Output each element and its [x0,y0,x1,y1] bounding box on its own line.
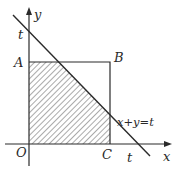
origin-label: O [16,145,27,160]
x-axis-arrow-icon [164,141,172,147]
point-b-label: B [113,50,124,65]
diagram-canvas: y t A B O C t x x+y=t [0,0,174,173]
y-axis-arrow-icon [26,7,32,15]
x-intercept-label: t [127,150,133,165]
line-equation-label: x+y=t [117,115,154,129]
x-axis-label: x [163,149,171,164]
point-a-label: A [13,55,23,70]
y-axis-label: y [33,7,42,22]
point-c-label: C [102,147,112,162]
y-intercept-label: t [18,27,24,42]
